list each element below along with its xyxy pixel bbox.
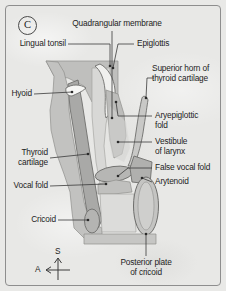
hyoid-bone bbox=[66, 85, 86, 96]
label-hyoid: Hyoid bbox=[6, 89, 32, 99]
trachea-segment bbox=[84, 234, 156, 244]
orientation-compass bbox=[46, 258, 70, 280]
figure-panel: C Quadrangular membrane Lingual tonsil E… bbox=[0, 0, 226, 291]
label-aryepiglottic-fold-line2: fold bbox=[155, 121, 168, 131]
label-posterior-plate-of-cricoid-line2: of cricoid bbox=[110, 268, 182, 278]
label-lingual-tonsil: Lingual tonsil bbox=[6, 39, 66, 49]
label-superior-horn-thyroid-cartilage-line2: thyroid cartilage bbox=[152, 74, 208, 84]
posterior-plate-inner bbox=[138, 182, 154, 230]
label-thyroid-cartilage-line2: cartilage bbox=[6, 158, 48, 168]
label-vestibule-of-larynx-line2: of larynx bbox=[155, 147, 185, 157]
label-cricoid: Cricoid bbox=[6, 215, 56, 225]
figure-frame: C Quadrangular membrane Lingual tonsil E… bbox=[5, 5, 221, 286]
infraglottic-cavity bbox=[100, 194, 136, 232]
compass-label-superior: S bbox=[55, 247, 61, 256]
panel-label: C bbox=[18, 16, 37, 35]
label-arytenoid: Arytenoid bbox=[155, 177, 189, 187]
label-vocal-fold: Vocal fold bbox=[6, 181, 48, 191]
superior-horn-thyroid-cartilage bbox=[128, 96, 148, 166]
compass-label-anterior: A bbox=[35, 265, 41, 274]
cricoid-cartilage bbox=[85, 209, 100, 233]
label-epiglottis: Epiglottis bbox=[137, 39, 169, 49]
label-false-vocal-fold: False vocal fold bbox=[155, 163, 210, 173]
label-quadrangular-membrane: Quadrangular membrane bbox=[62, 19, 172, 29]
